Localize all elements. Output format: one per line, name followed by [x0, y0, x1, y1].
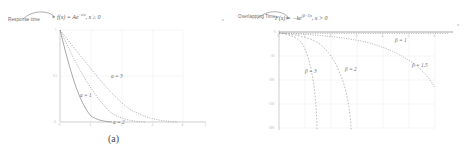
- curve-label-b-beta3: β = 3: [305, 68, 317, 74]
- curve-label-a-3: a = 3: [111, 73, 123, 79]
- panel-a-formula-tail: , x ≥ 0: [85, 14, 100, 20]
- panel-a-caption: (a): [108, 133, 119, 144]
- panel-b-formula-exponent: (β−1)x: [302, 14, 312, 18]
- x-tick-b-3: 3: [356, 34, 358, 38]
- y-tick-b-4: -200: [268, 126, 274, 130]
- curve-label-b-beta2: β = 2: [345, 66, 357, 72]
- y-tick-a-1: 0.5: [53, 74, 57, 78]
- panel-b-formula-tail: , x > 0: [312, 15, 328, 21]
- panel-a-formula-main: f(x) = Ae: [57, 14, 79, 20]
- overlapping-time-annotation: Overlapping Time: [238, 14, 276, 19]
- y-tick-a-0: 0: [54, 120, 56, 124]
- x-tick-b-5: 5: [408, 34, 410, 38]
- panel-b-formula-main: F(x) = −ke: [275, 15, 302, 21]
- y-tick-b-3: -150: [268, 102, 274, 106]
- x-tick-b-0: 0: [278, 34, 280, 38]
- curve-b-beta3: [279, 33, 317, 130]
- y-tick-b-1: -50: [270, 54, 275, 58]
- x-tick-a-4: 4: [182, 123, 184, 127]
- panel-b: Overlapping Time F(x) = −ke(β−1)x, x > 0…: [235, 0, 471, 161]
- x-tick-a-1: 1: [90, 123, 92, 127]
- panel-a: Response time f(x) = Ae−x/a, x ≥ 0 x a =…: [0, 0, 235, 161]
- y-tick-a-2: 1: [55, 28, 57, 32]
- x-tick-b-1: 1: [304, 34, 306, 38]
- x-tick-a-3: 3: [152, 123, 154, 127]
- panel-b-x-axis-label: x: [457, 22, 459, 27]
- x-tick-a-2: 2: [121, 123, 123, 127]
- panel-a-formula: f(x) = Ae−x/a, x ≥ 0: [57, 13, 100, 20]
- response-time-annotation: Response time: [8, 17, 40, 22]
- curve-label-b-beta1: β = 1: [395, 37, 407, 43]
- x-tick-a-0: 0: [59, 123, 61, 127]
- panel-a-x-axis-label: x: [222, 17, 224, 22]
- curve-label-b-beta15: β = 1.5: [412, 62, 428, 68]
- x-tick-b-2: 2: [330, 34, 332, 38]
- curve-b-beta2: [279, 33, 351, 130]
- x-tick-a-5: 5: [205, 123, 207, 127]
- grid-lines: [279, 32, 435, 128]
- x-tick-b-6: 6: [434, 34, 436, 38]
- curve-label-a-1: a = 1: [80, 92, 92, 98]
- y-tick-b-2: -100: [268, 78, 274, 82]
- figure-container: Response time f(x) = Ae−x/a, x ≥ 0 x a =…: [0, 0, 471, 161]
- x-tick-b-4: 4: [382, 34, 384, 38]
- panel-b-formula: F(x) = −ke(β−1)x, x > 0: [275, 14, 327, 21]
- curve-label-a-2: a = 2: [113, 119, 125, 125]
- y-tick-b-0: 0: [274, 30, 276, 34]
